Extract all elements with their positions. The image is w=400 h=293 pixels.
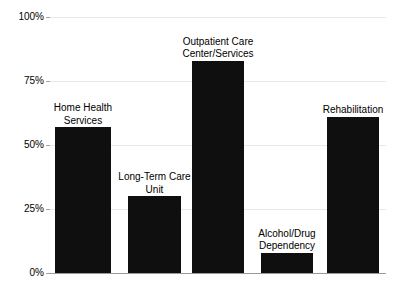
y-tick-label-25: 25% xyxy=(24,204,44,214)
bar-label-line1: Rehabilitation xyxy=(323,104,384,115)
bar-label-line2: Dependency xyxy=(259,240,315,251)
bar-label-line1: Home Health xyxy=(54,102,112,113)
bar-long-term-care-unit[interactable] xyxy=(128,196,181,273)
bar-rehabilitation[interactable] xyxy=(327,117,379,273)
bar-label-outpatient-care-center-services: Outpatient Care Center/Services xyxy=(168,36,268,61)
bar-label-rehabilitation: Rehabilitation xyxy=(303,104,400,117)
axis-baseline xyxy=(50,273,386,274)
bar-group-home-health-services: Home Health Services xyxy=(55,17,111,273)
y-tick-label-100: 100% xyxy=(18,12,44,22)
bar-label-line1: Alcohol/Drug xyxy=(258,228,315,239)
bar-label-home-health-services: Home Health Services xyxy=(31,102,135,127)
y-tick-label-0: 0% xyxy=(30,268,44,278)
bar-label-line1: Long-Term Care xyxy=(118,171,190,182)
y-axis: 100% 75% 50% 25% 0% xyxy=(0,0,50,293)
y-tick-label-50: 50% xyxy=(24,140,44,150)
bar-chart: 100% 75% 50% 25% 0% Home Health Services… xyxy=(0,0,400,293)
bar-alcohol-drug-dependency[interactable] xyxy=(261,253,313,273)
bar-label-line2: Unit xyxy=(146,184,164,195)
bar-group-alcohol-drug-dependency: Alcohol/Drug Dependency xyxy=(261,17,313,273)
bar-label-line2: Services xyxy=(64,115,102,126)
bar-home-health-services[interactable] xyxy=(55,127,111,273)
bar-label-line2: Center/Services xyxy=(182,48,253,59)
bar-label-long-term-care-unit: Long-Term Care Unit xyxy=(104,171,205,196)
y-tick-label-75: 75% xyxy=(24,76,44,86)
bar-group-rehabilitation: Rehabilitation xyxy=(327,17,379,273)
plot-area: Home Health Services Long-Term Care Unit… xyxy=(50,17,386,273)
bar-label-line1: Outpatient Care xyxy=(183,36,254,47)
bar-label-alcohol-drug-dependency: Alcohol/Drug Dependency xyxy=(237,228,337,253)
